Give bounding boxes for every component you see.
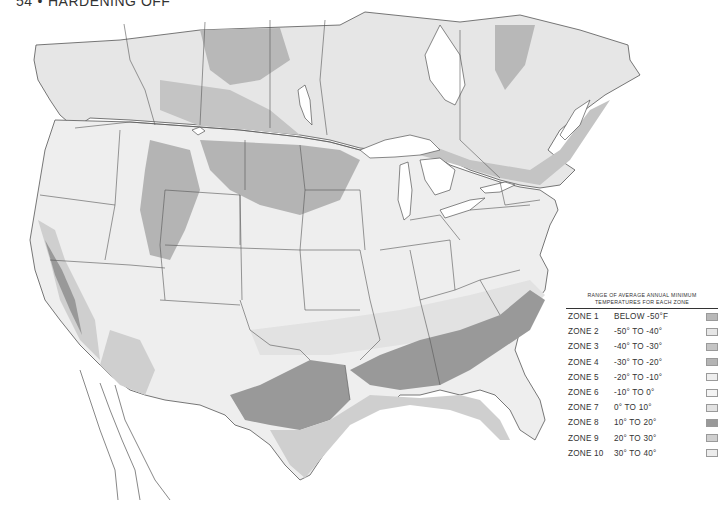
zone-range: 20° TO 30° xyxy=(614,434,692,443)
zone-range: -50° TO -40° xyxy=(614,327,692,336)
zone-name: ZONE 8 xyxy=(566,418,614,427)
zone-range: 30° TO 40° xyxy=(614,449,692,458)
legend-row-zone-2: ZONE 2 -50° TO -40° xyxy=(566,324,718,339)
zone-range: 0° TO 10° xyxy=(614,403,692,412)
zone-range: -40° TO -30° xyxy=(614,342,692,351)
zone-legend: RANGE OF AVERAGE ANNUAL MINIMUM TEMPERAT… xyxy=(566,292,718,461)
zone-range: -30° TO -20° xyxy=(614,358,692,367)
zone-swatch xyxy=(706,404,718,412)
zone-name: ZONE 5 xyxy=(566,373,614,382)
zone-swatch xyxy=(706,419,718,427)
zone-range: -10° TO 0° xyxy=(614,388,692,397)
zone-swatch xyxy=(706,389,718,397)
zone-name: ZONE 6 xyxy=(566,388,614,397)
legend-row-zone-4: ZONE 4 -30° TO -20° xyxy=(566,355,718,370)
zone-swatch xyxy=(706,373,718,381)
zone-swatch xyxy=(706,449,718,457)
zone-name: ZONE 10 xyxy=(566,449,614,458)
legend-row-zone-6: ZONE 6 -10° TO 0° xyxy=(566,385,718,400)
zone-name: ZONE 9 xyxy=(566,434,614,443)
zone-name: ZONE 3 xyxy=(566,342,614,351)
zone-swatch xyxy=(706,313,718,321)
zone-swatch xyxy=(706,358,718,366)
zone-range: -20° TO -10° xyxy=(614,373,692,382)
zone-name: ZONE 7 xyxy=(566,403,614,412)
zone-name: ZONE 2 xyxy=(566,327,614,336)
zone-name: ZONE 1 xyxy=(566,312,614,321)
legend-row-zone-8: ZONE 8 10° TO 20° xyxy=(566,415,718,430)
legend-row-zone-1: ZONE 1 BELOW -50°F xyxy=(566,309,718,324)
zone-swatch xyxy=(706,328,718,336)
zone-range: BELOW -50°F xyxy=(614,312,692,321)
zone-range: 10° TO 20° xyxy=(614,418,692,427)
zone-name: ZONE 4 xyxy=(566,358,614,367)
legend-row-zone-3: ZONE 3 -40° TO -30° xyxy=(566,339,718,354)
legend-title-line-1: RANGE OF AVERAGE ANNUAL MINIMUM xyxy=(566,292,718,299)
zone-swatch xyxy=(706,343,718,351)
legend-row-zone-5: ZONE 5 -20° TO -10° xyxy=(566,370,718,385)
legend-row-zone-7: ZONE 7 0° TO 10° xyxy=(566,400,718,415)
zone-swatch xyxy=(706,434,718,442)
legend-title-line-2: TEMPERATURES FOR EACH ZONE xyxy=(566,299,718,306)
legend-title: RANGE OF AVERAGE ANNUAL MINIMUM TEMPERAT… xyxy=(566,292,718,309)
legend-row-zone-9: ZONE 9 20° TO 30° xyxy=(566,431,718,446)
legend-row-zone-10: ZONE 10 30° TO 40° xyxy=(566,446,718,461)
